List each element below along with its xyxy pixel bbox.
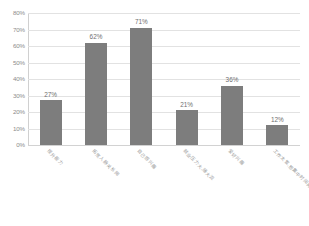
y-axis-tick-label: 10% (1, 126, 25, 132)
bar-value-label: 62% (90, 34, 103, 40)
bar-value-label: 21% (180, 102, 193, 108)
x-axis-category-label: 爱好兴趣 (227, 149, 245, 167)
y-axis-tick-labels: 0%10%20%30%40%50%60%70%80% (0, 13, 25, 145)
category-label-slot: 拓宽人脉关系网 (73, 147, 118, 225)
bar-slot: 36% (209, 13, 254, 145)
bar[interactable] (130, 28, 152, 145)
category-label-slot: 自己感兴趣 (119, 147, 164, 225)
x-axis-category-label: 自己感兴趣 (136, 149, 157, 170)
y-axis-tick-label: 40% (1, 76, 25, 82)
bar[interactable] (176, 110, 198, 145)
bar-value-label: 27% (44, 92, 57, 98)
bar-slot: 27% (28, 13, 73, 145)
y-axis-tick-label: 70% (1, 27, 25, 33)
y-axis-tick-label: 0% (1, 142, 25, 148)
category-label-slot: 就业压力大,随大流 (164, 147, 209, 225)
y-axis-tick-label: 80% (1, 10, 25, 16)
bar-slot: 21% (164, 13, 209, 145)
x-axis-category-label: 拓宽人脉关系网 (91, 149, 119, 177)
x-axis-category-label: 提升能力 (45, 149, 63, 167)
bar[interactable] (221, 86, 243, 145)
bar[interactable] (40, 100, 62, 145)
y-axis-tick-label: 60% (1, 43, 25, 49)
category-label-slot: 爱好兴趣 (209, 147, 254, 225)
x-axis-category-label: 工作太累,想集中时间再一次性放松 (272, 149, 309, 207)
bar-slot: 62% (73, 13, 118, 145)
bar-value-label: 12% (271, 117, 284, 123)
x-axis-category-labels: 提升能力拓宽人脉关系网自己感兴趣就业压力大,随大流爱好兴趣工作太累,想集中时间再… (28, 147, 300, 225)
y-axis-tick-label: 20% (1, 109, 25, 115)
bar-slot: 71% (119, 13, 164, 145)
bar-chart: 0%10%20%30%40%50%60%70%80% 27%62%71%21%3… (0, 0, 309, 226)
category-label-slot: 工作太累,想集中时间再一次性放松 (255, 147, 300, 225)
bar[interactable] (85, 43, 107, 145)
plot-area: 27%62%71%21%36%12% (28, 13, 300, 145)
bar-value-label: 36% (226, 77, 239, 83)
category-label-slot: 提升能力 (28, 147, 73, 225)
bar-slot: 12% (255, 13, 300, 145)
y-axis-tick-label: 30% (1, 93, 25, 99)
y-axis-tick-label: 50% (1, 60, 25, 66)
bar-value-label: 71% (135, 19, 148, 25)
bar[interactable] (266, 125, 288, 145)
gridline (28, 145, 300, 146)
